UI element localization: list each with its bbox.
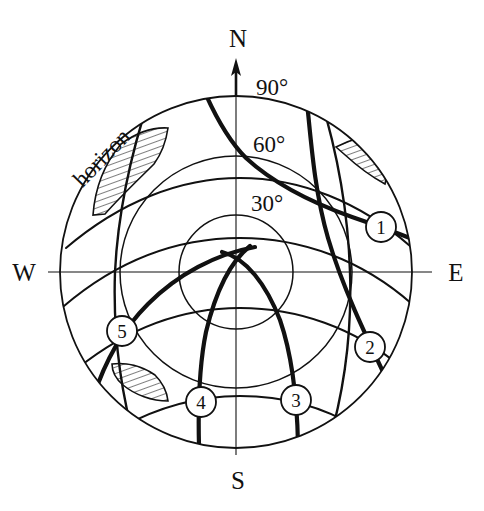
parallel-curve-bottom (120, 396, 358, 428)
label-altitude-30: 30° (251, 191, 283, 216)
label-north: N (229, 25, 247, 52)
marker-1[interactable]: 1 (366, 212, 396, 242)
skyplot-diagram: 1 2 3 4 5 N S W E 90° (0, 0, 484, 511)
label-altitude-60: 60° (253, 132, 285, 157)
marker-2[interactable]: 2 (355, 332, 385, 362)
marker-4-label: 4 (196, 392, 206, 413)
skyplot-canvas: 1 2 3 4 5 N S W E 90° (0, 0, 484, 511)
marker-3-label: 3 (291, 390, 301, 411)
marker-5-label: 5 (117, 321, 127, 342)
horizon-obstruction-ne (336, 133, 389, 184)
track-curve-3[interactable] (222, 252, 298, 444)
marker-1-label: 1 (376, 217, 386, 238)
marker-5[interactable]: 5 (107, 316, 137, 346)
label-altitude-90: 90° (256, 75, 288, 100)
marker-3[interactable]: 3 (281, 385, 311, 415)
label-east: E (448, 259, 463, 286)
label-south: S (231, 467, 245, 494)
marker-4[interactable]: 4 (186, 387, 216, 417)
marker-2-label: 2 (365, 337, 375, 358)
label-west: W (12, 259, 36, 286)
obstruction-group (93, 128, 389, 401)
